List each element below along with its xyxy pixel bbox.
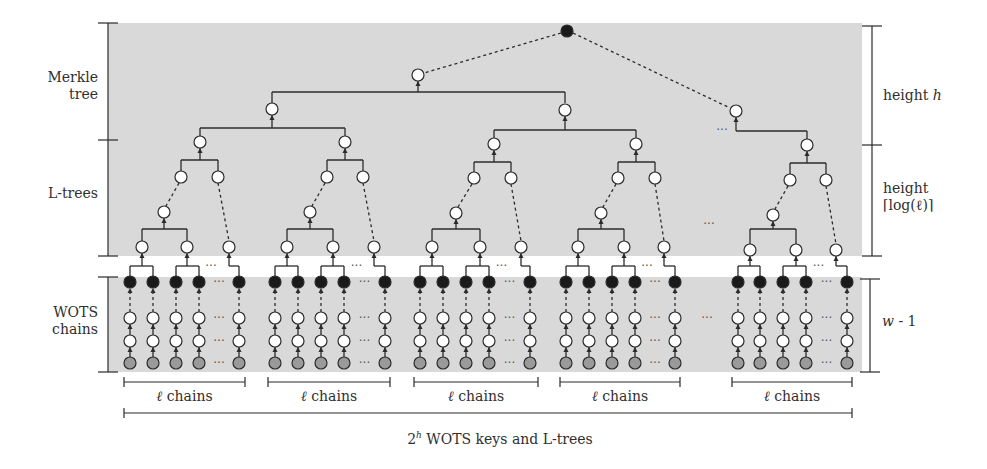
- wots-chain-node: [315, 312, 327, 324]
- ltree-height-line2: ⌈log(ℓ)⌉: [883, 197, 933, 214]
- merkle-node: [412, 69, 424, 81]
- wots-end-node: [629, 276, 641, 288]
- ellipsis: ···: [504, 334, 515, 348]
- wots-start-node: [777, 357, 789, 369]
- ltree-leaf: [744, 244, 756, 256]
- ltree-node: [450, 207, 462, 219]
- merkle-node: [559, 104, 571, 116]
- wots-start-node: [437, 357, 449, 369]
- ltree-node: [212, 171, 224, 183]
- ltree-leaf: [572, 241, 584, 253]
- wots-end-node: [437, 276, 449, 288]
- wots-start-node: [583, 357, 595, 369]
- wots-end-node: [669, 276, 681, 288]
- wots-chain-node: [269, 335, 281, 347]
- wots-end-node: [170, 276, 182, 288]
- wots-end-node: [583, 276, 595, 288]
- ltree-leaf: [223, 241, 235, 253]
- label-merkle-tree: Merkle tree: [30, 69, 98, 103]
- ltree-leaf: [426, 241, 438, 253]
- group-label-4: ℓ chains: [560, 388, 680, 405]
- wots-start-node: [147, 357, 159, 369]
- ltree-node: [767, 209, 779, 221]
- ellipsis: ···: [813, 259, 824, 273]
- label-l-trees-text: L-trees: [48, 185, 98, 201]
- ellipsis: ···: [703, 217, 714, 231]
- wots-end-node: [414, 276, 426, 288]
- wots-chain-node: [269, 312, 281, 324]
- band-merkle: [108, 23, 862, 140]
- ltree-node: [304, 206, 316, 218]
- ellipsis: ···: [821, 311, 832, 325]
- wots-var-w: w: [882, 313, 894, 329]
- group-label-2: ℓ chains: [268, 388, 390, 405]
- wots-start-node: [669, 357, 681, 369]
- wots-end-node: [777, 276, 789, 288]
- wots-end-node: [560, 276, 572, 288]
- ltree-leaf: [327, 241, 339, 253]
- wots-start-node: [524, 357, 536, 369]
- wots-chain-node: [524, 335, 536, 347]
- ellipsis: ···: [213, 311, 224, 325]
- wots-chain-node: [560, 335, 572, 347]
- label-total-keys: 2h WOTS keys and L-trees: [300, 427, 700, 448]
- wots-chain-node: [147, 335, 159, 347]
- wots-chain-node: [124, 312, 136, 324]
- wots-chain-node: [147, 312, 159, 324]
- wots-chain-node: [841, 312, 853, 324]
- ltree-node: [649, 172, 661, 184]
- wots-chain-node: [524, 312, 536, 324]
- wots-chain-node: [460, 312, 472, 324]
- ellipsis: ···: [701, 311, 712, 325]
- wots-end-node: [315, 276, 327, 288]
- wots-start-node: [193, 357, 205, 369]
- wots-chain-node: [233, 312, 245, 324]
- wots-start-node: [414, 357, 426, 369]
- label-wots-line2: chains: [20, 321, 98, 338]
- arrowhead: [794, 256, 799, 261]
- wots-start-node: [233, 357, 245, 369]
- wots-chain-node: [414, 335, 426, 347]
- wots-chain-node: [777, 335, 789, 347]
- wots-start-node: [732, 357, 744, 369]
- wots-chain-node: [754, 312, 766, 324]
- ltree-node: [820, 174, 832, 186]
- ellipsis: ···: [213, 334, 224, 348]
- wots-chain-node: [669, 312, 681, 324]
- wots-chain-node: [437, 335, 449, 347]
- ltree-root: [801, 139, 813, 151]
- label-height-h: height h: [883, 87, 942, 104]
- ltree-node: [357, 171, 369, 183]
- ltree-root: [488, 138, 500, 150]
- wots-start-node: [606, 357, 618, 369]
- ltree-height-line1: height: [883, 180, 933, 197]
- wots-chain-node: [170, 312, 182, 324]
- ltree-node: [505, 172, 517, 184]
- wots-start-node: [800, 357, 812, 369]
- group-label-5: ℓ chains: [732, 388, 852, 405]
- wots-chain-node: [606, 335, 618, 347]
- arrowhead: [834, 256, 839, 261]
- wots-end-node: [606, 276, 618, 288]
- wots-start-node: [170, 357, 182, 369]
- ltree-node: [321, 171, 333, 183]
- wots-end-node: [233, 276, 245, 288]
- ellipsis: ···: [213, 356, 224, 370]
- wots-chain-node: [338, 312, 350, 324]
- wots-chain-node: [732, 335, 744, 347]
- wots-end-node: [754, 276, 766, 288]
- wots-chain-node: [193, 335, 205, 347]
- wots-chain-node: [338, 335, 350, 347]
- ltree-leaf: [368, 241, 380, 253]
- wots-end-node: [338, 276, 350, 288]
- label-w-minus-1: w - 1: [882, 313, 917, 330]
- wots-end-node: [124, 276, 136, 288]
- total-base: 2: [407, 431, 416, 447]
- wots-start-node: [315, 357, 327, 369]
- ltree-leaf: [618, 241, 630, 253]
- ellipsis: ···: [213, 275, 224, 289]
- ellipsis: ···: [504, 356, 515, 370]
- band-ltrees: [108, 140, 862, 256]
- ltree-leaf: [830, 244, 842, 256]
- arrowhead: [748, 256, 753, 261]
